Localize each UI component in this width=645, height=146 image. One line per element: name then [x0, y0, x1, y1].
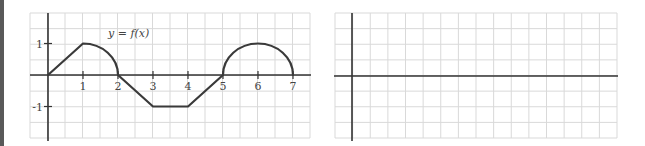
left-chart: 12345671-1 y = f(x) [30, 13, 311, 141]
x-tick-label: 6 [255, 80, 262, 93]
charts-canvas: 12345671-1 y = f(x) [0, 0, 645, 146]
x-tick-label: 5 [220, 80, 227, 93]
x-tick-label: 2 [115, 80, 122, 93]
function-label: y = f(x) [107, 27, 149, 40]
x-tick-label: 1 [80, 80, 87, 93]
x-tick-label: 7 [290, 80, 297, 93]
x-tick-label: 3 [150, 80, 157, 93]
y-tick-label: 1 [36, 38, 43, 51]
right-chart [334, 13, 618, 141]
y-tick-label: -1 [32, 101, 43, 114]
x-tick-label: 4 [185, 80, 192, 93]
